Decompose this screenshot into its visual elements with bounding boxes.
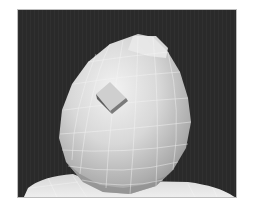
3d-viewport[interactable]: [17, 9, 237, 198]
mesh-render: [18, 10, 237, 198]
